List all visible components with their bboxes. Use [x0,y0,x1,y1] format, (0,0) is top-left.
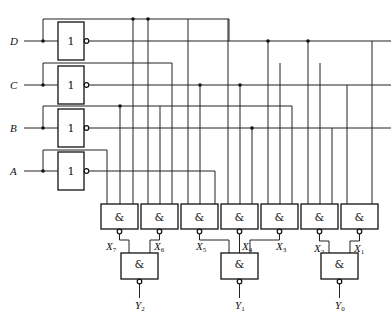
nand-gate-Y0: & Y0 [321,253,358,313]
y2-label: Y2 [135,299,145,313]
nand-symbol: & [235,211,245,224]
nand-gate-Y1: & Y1 [221,253,258,313]
input-label-B: B [10,122,17,134]
not-gate-symbol: 1 [68,122,75,135]
nand-gate-X4: & X4 [221,204,258,254]
input-B: B [10,106,292,204]
x7-label: X7 [105,240,117,254]
not-gate-symbol: 1 [68,165,75,178]
input-label-A: A [9,165,17,177]
input-label-D: D [9,35,18,47]
nand-symbol: & [355,211,365,224]
y0-label: Y0 [335,299,345,313]
nand-symbol: & [315,211,325,224]
x5-label: X5 [195,240,207,254]
not-gate-symbol: 1 [68,79,75,92]
nand-symbol: & [155,211,165,224]
nand-symbol: & [235,258,245,271]
nand-symbol: & [275,211,285,224]
logic-circuit-diagram: D C B A 1 1 [0,0,391,325]
x6-label: X6 [153,240,165,254]
nand-symbol: & [115,211,125,224]
input-D: D [9,19,229,47]
nand-gate-Y2: & Y2 [121,253,158,313]
input-label-C: C [10,79,18,91]
nand-symbol: & [195,211,205,224]
nand-gate-X7: & X7 [101,204,138,254]
not-gate-B: 1 [58,109,391,147]
not-gate-A: 1 [58,152,215,190]
nand-symbol: & [335,258,345,271]
nand-gate-X2: & X2 [301,204,338,256]
x3-label: X3 [275,240,287,254]
nand-gate-X6: & X6 [141,204,178,254]
nand-symbol: & [135,258,145,271]
y1-label: Y1 [235,299,245,313]
x4-label: X4 [241,240,253,254]
not-gate-C: 1 [58,66,391,104]
not-gate-D: 1 [58,22,391,60]
not-gate-symbol: 1 [68,35,75,48]
nand-gate-X1: & X1 [341,204,378,256]
